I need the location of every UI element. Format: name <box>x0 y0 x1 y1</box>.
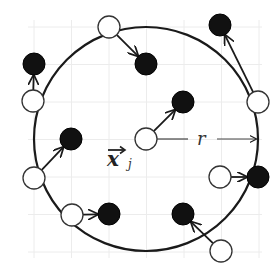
center-subscript: j <box>125 157 132 171</box>
white-point <box>98 16 120 38</box>
white-point <box>61 204 83 226</box>
black-point <box>135 53 157 75</box>
black-point <box>209 14 231 36</box>
black-point <box>23 53 45 75</box>
displacement-arrow <box>42 147 64 170</box>
particle-neighborhood-diagram: r x j <box>0 0 278 275</box>
black-point <box>60 128 82 150</box>
black-point <box>98 203 120 225</box>
center-vector-label: x j <box>106 147 132 172</box>
displacement-arrow <box>154 110 175 131</box>
white-point <box>23 167 45 189</box>
black-point <box>172 203 194 225</box>
black-point <box>172 91 194 113</box>
displacement-arrow <box>117 35 138 56</box>
white-point <box>135 128 157 150</box>
radius-label: r <box>197 128 207 149</box>
diagram-svg: r x j <box>0 0 278 275</box>
white-point <box>209 166 231 188</box>
black-point <box>247 166 269 188</box>
radius-indicator: r <box>157 128 256 149</box>
white-point <box>247 91 269 113</box>
white-point <box>22 90 44 112</box>
white-point <box>210 240 232 262</box>
